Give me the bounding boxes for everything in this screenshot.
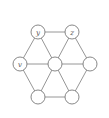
node-circle [83, 57, 97, 71]
node-circle [65, 90, 79, 104]
node-circle [31, 90, 45, 104]
node-circle [48, 57, 62, 71]
node-n_bl [31, 90, 45, 104]
node-n_c [48, 57, 62, 71]
node-n_r [83, 57, 97, 71]
node-v: v [13, 57, 27, 71]
node-label: z [69, 29, 74, 37]
node-z: z [65, 25, 79, 39]
nodes: yzv [13, 25, 97, 104]
node-y: y [31, 25, 45, 39]
node-n_br [65, 90, 79, 104]
node-label: v [18, 61, 22, 69]
wheel-graph: yzv [0, 0, 109, 118]
